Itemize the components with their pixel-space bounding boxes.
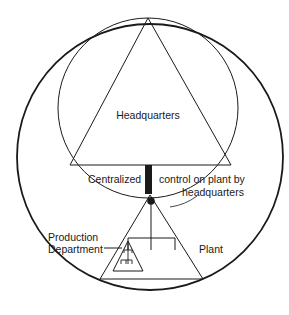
control-bar <box>145 165 152 194</box>
control-label-line2: headquarters <box>182 186 244 198</box>
control-label-line1: control on plant by <box>159 173 246 185</box>
centralized-label: Centralized <box>88 173 141 185</box>
organization-diagram: Headquarters Centralized control on plan… <box>0 0 289 315</box>
plant-label: Plant <box>199 243 223 255</box>
headquarters-label: Headquarters <box>116 109 180 121</box>
production-label-line2: Department <box>48 243 103 255</box>
production-label-line1: Production <box>48 231 98 243</box>
